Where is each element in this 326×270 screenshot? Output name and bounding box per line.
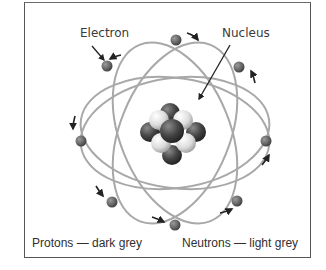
arrow-icon <box>73 116 75 129</box>
electron <box>76 136 87 147</box>
arrow-icon <box>96 186 103 196</box>
electron <box>232 196 243 207</box>
nucleus-label: Nucleus <box>222 26 270 40</box>
arrow-icon <box>110 55 121 59</box>
arrow-icon <box>251 71 255 83</box>
arrow-icon <box>152 217 164 222</box>
atom-illustration <box>0 0 326 270</box>
proton <box>160 119 184 143</box>
electron <box>107 197 118 208</box>
electron <box>261 136 272 147</box>
neutrons-legend: Neutrons — light grey <box>182 236 298 250</box>
electron-pointer-arrow-icon <box>92 46 104 60</box>
nucleus <box>140 103 206 165</box>
electron <box>170 220 181 231</box>
electron <box>234 62 245 73</box>
electron-label: Electron <box>80 26 129 40</box>
electron <box>102 61 113 72</box>
arrow-icon <box>187 33 198 40</box>
electron <box>171 35 182 46</box>
protons-legend: Protons — dark grey <box>32 236 142 250</box>
